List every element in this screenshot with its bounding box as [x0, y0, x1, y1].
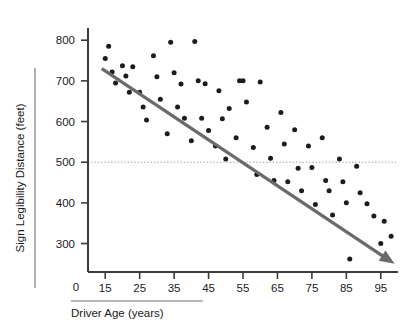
data-point: [220, 116, 225, 121]
y-axis-title-group: Sign Legibility Distance (feet): [14, 68, 35, 288]
data-point: [206, 128, 211, 133]
data-point: [203, 81, 208, 86]
data-point: [365, 201, 370, 206]
data-point: [320, 135, 325, 140]
x-tick-marks: [105, 272, 381, 279]
data-point: [154, 74, 159, 79]
trend-line: [102, 69, 386, 259]
data-points: [103, 39, 394, 262]
origin-tick-label: 0: [73, 281, 79, 293]
x-tick-label: 75: [305, 282, 318, 294]
y-tick-labels: 300400500600700800: [56, 34, 75, 249]
data-point: [340, 179, 345, 184]
data-point: [127, 90, 132, 95]
data-point: [189, 138, 194, 143]
trend-line-group: [102, 69, 395, 264]
data-point: [168, 40, 173, 45]
x-axis-title: Driver Age (years): [71, 307, 164, 319]
data-point: [306, 143, 311, 148]
data-point: [378, 241, 383, 246]
x-tick-label: 35: [168, 282, 181, 294]
data-point: [216, 88, 221, 93]
data-point: [192, 39, 197, 44]
data-point: [179, 82, 184, 87]
data-point: [182, 116, 187, 121]
data-point: [123, 73, 128, 78]
y-tick-label: 600: [56, 116, 75, 128]
data-point: [282, 141, 287, 146]
data-point: [371, 213, 376, 218]
data-point: [268, 156, 273, 161]
y-tick-label: 300: [56, 238, 75, 250]
data-point: [382, 219, 387, 224]
scatter-chart-figure: 300400500600700800 152535455565758595 0 …: [0, 0, 406, 334]
data-point: [141, 104, 146, 109]
data-point: [196, 78, 201, 83]
x-tick-label: 25: [133, 282, 146, 294]
y-axis: 300400500600700800: [56, 28, 88, 272]
data-point: [144, 117, 149, 122]
data-point: [151, 53, 156, 58]
data-point: [103, 56, 108, 61]
x-axis: 152535455565758595: [88, 272, 398, 294]
data-point: [299, 188, 304, 193]
data-point: [292, 127, 297, 132]
data-point: [172, 70, 177, 75]
y-tick-label: 500: [56, 156, 75, 168]
data-point: [223, 156, 228, 161]
data-point: [244, 100, 249, 105]
data-point: [113, 80, 118, 85]
data-point: [285, 179, 290, 184]
y-axis-title: Sign Legibility Distance (feet): [14, 103, 26, 252]
data-point: [389, 234, 394, 239]
data-point: [358, 190, 363, 195]
data-point: [251, 145, 256, 150]
data-point: [227, 106, 232, 111]
data-point: [327, 188, 332, 193]
data-point: [265, 125, 270, 130]
data-point: [309, 165, 314, 170]
data-point: [330, 213, 335, 218]
data-point: [313, 202, 318, 207]
x-axis-title-group: Driver Age (years): [71, 301, 203, 319]
data-point: [241, 78, 246, 83]
y-tick-label: 700: [56, 75, 75, 87]
x-tick-label: 55: [237, 282, 250, 294]
data-point: [234, 135, 239, 140]
data-point: [130, 64, 135, 69]
y-tick-label: 400: [56, 197, 75, 209]
data-point: [165, 131, 170, 136]
data-point: [344, 200, 349, 205]
data-point: [175, 104, 180, 109]
x-tick-label: 85: [340, 282, 353, 294]
chart-canvas: 300400500600700800 152535455565758595 0 …: [0, 0, 406, 334]
x-tick-label: 45: [202, 282, 215, 294]
data-point: [278, 110, 283, 115]
x-tick-labels: 152535455565758595: [99, 282, 387, 294]
x-tick-label: 15: [99, 282, 112, 294]
data-point: [323, 178, 328, 183]
x-tick-label: 95: [374, 282, 387, 294]
data-point: [296, 166, 301, 171]
data-point: [120, 63, 125, 68]
x-tick-label: 65: [271, 282, 284, 294]
y-tick-label: 800: [56, 34, 75, 46]
data-point: [106, 44, 111, 49]
data-point: [158, 97, 163, 102]
data-point: [337, 156, 342, 161]
data-point: [354, 164, 359, 169]
data-point: [199, 116, 204, 121]
trend-arrow-head: [379, 250, 395, 263]
y-tick-marks: [81, 40, 88, 243]
data-point: [258, 80, 263, 85]
data-point: [347, 256, 352, 261]
